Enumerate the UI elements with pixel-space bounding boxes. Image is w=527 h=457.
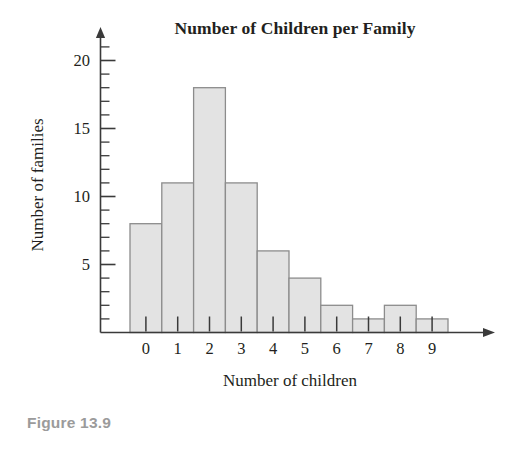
x-axis-tick-label: 7	[353, 339, 385, 359]
x-axis-tick-label: 0	[130, 339, 162, 359]
x-axis-tick-label: 6	[321, 339, 353, 359]
y-axis-tick-label: 15	[56, 119, 90, 139]
y-axis-tick-label: 20	[56, 51, 90, 71]
y-axis-tick-label: 10	[56, 187, 90, 207]
y-axis-ticks	[101, 47, 116, 319]
x-axis-tick-label: 8	[384, 339, 416, 359]
figure-root: Number of Children per Family Number of …	[0, 0, 527, 457]
x-axis-tick-label: 5	[289, 339, 321, 359]
y-axis-tick-label: 5	[56, 255, 90, 275]
histogram-bar	[194, 88, 226, 333]
histogram-bar	[225, 183, 257, 333]
x-axis-arrowhead	[483, 328, 495, 337]
y-axis-arrowhead	[96, 27, 105, 38]
x-axis-tick-label: 2	[194, 339, 226, 359]
histogram-bar	[162, 183, 194, 333]
x-axis-tick-label: 4	[257, 339, 289, 359]
x-axis-tick-label: 1	[162, 339, 194, 359]
x-axis-title: Number of children	[120, 371, 460, 391]
histogram-bar	[130, 224, 162, 333]
x-axis-tick-label: 9	[416, 339, 448, 359]
x-axis-tick-label: 3	[225, 339, 257, 359]
y-axis-title: Number of families	[28, 85, 48, 285]
figure-caption: Figure 13.9	[27, 414, 111, 432]
bars-group	[130, 88, 448, 333]
